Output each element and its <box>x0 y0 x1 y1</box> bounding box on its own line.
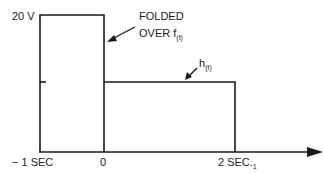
h-pointer-arrow <box>189 68 197 76</box>
h-pulse <box>104 82 235 152</box>
y-label-20v: 20 V <box>12 10 35 22</box>
folded-label-line1: FOLDED <box>139 10 184 22</box>
folded-label-sub: (t) <box>176 34 183 41</box>
x-tick-2sec-sub: 1 <box>253 163 257 170</box>
folded-f-pulse <box>40 15 104 152</box>
x-tick-minus1: − 1 SEC <box>12 156 53 168</box>
x-axis-arrow-icon <box>307 147 323 157</box>
folded-arrowhead-icon <box>107 35 117 42</box>
h-label-sub: (t) <box>205 64 212 71</box>
x-tick-zero: 0 <box>100 156 106 168</box>
folded-pointer-arrow <box>112 27 135 39</box>
folded-label-line2: OVER f(t) <box>139 27 183 44</box>
x-tick-2sec: 2 SEC.1 <box>218 156 257 173</box>
x-tick-2sec-main: 2 SEC. <box>218 156 253 168</box>
folded-label-main: OVER f <box>139 27 176 39</box>
h-label: h(t) <box>199 57 212 74</box>
